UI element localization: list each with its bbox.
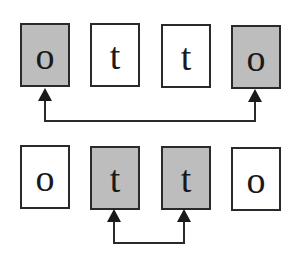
diagram-canvas: o t t o o t t o [0, 0, 296, 257]
connector-line [45, 100, 255, 121]
arrowhead-up-icon [107, 209, 121, 222]
arrowhead-up-icon [177, 209, 191, 222]
connector-line [114, 222, 184, 243]
arrowhead-up-icon [248, 89, 262, 102]
connector-arrows [0, 0, 296, 257]
connector-row1 [38, 88, 262, 121]
connector-row2 [107, 209, 191, 243]
arrowhead-up-icon [38, 88, 52, 101]
